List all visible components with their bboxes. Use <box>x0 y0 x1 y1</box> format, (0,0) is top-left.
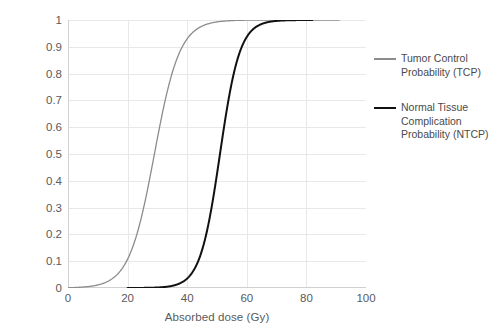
y-axis-tick-label: 0.1 <box>30 255 62 267</box>
x-axis-tick-label: 80 <box>286 292 326 304</box>
chart-container: Probability of outcome 00.10.20.30.40.50… <box>0 0 496 336</box>
chart-legend: Tumor Control Probability (TCP) Normal T… <box>374 52 496 164</box>
legend-entry-tcp: Tumor Control Probability (TCP) <box>374 52 496 79</box>
x-axis-tick-labels: 020406080100 <box>0 292 496 308</box>
y-axis-tick-label: 0.3 <box>30 202 62 214</box>
x-axis-tick-label: 100 <box>346 292 386 304</box>
x-axis-tick-label: 40 <box>167 292 207 304</box>
plot-area <box>68 20 366 288</box>
y-axis-tick-label: 0.9 <box>30 41 62 53</box>
y-axis-tick-label: 0.7 <box>30 94 62 106</box>
y-axis-tick-label: 0.5 <box>30 148 62 160</box>
y-axis-tick-label: 0.2 <box>30 228 62 240</box>
legend-line-icon-ntcp <box>374 101 396 114</box>
y-axis-tick-label: 1 <box>30 14 62 26</box>
x-axis-title: Absorbed dose (Gy) <box>68 311 366 323</box>
legend-label-tcp: Tumor Control Probability (TCP) <box>401 52 495 79</box>
x-axis-tick-label: 20 <box>108 292 148 304</box>
x-axis-tick-label: 0 <box>48 292 88 304</box>
legend-label-ntcp: Normal Tissue Complication Probability (… <box>401 101 495 142</box>
y-axis-tick-label: 0.4 <box>30 175 62 187</box>
legend-entry-ntcp: Normal Tissue Complication Probability (… <box>374 101 496 142</box>
plot-svg <box>68 20 366 288</box>
y-axis-tick-label: 0.8 <box>30 68 62 80</box>
y-axis-tick-label: 0.6 <box>30 121 62 133</box>
legend-line-icon-tcp <box>374 52 396 65</box>
x-axis-tick-label: 60 <box>227 292 267 304</box>
y-axis-tick-labels: 00.10.20.30.40.50.60.70.80.91 <box>30 0 62 336</box>
